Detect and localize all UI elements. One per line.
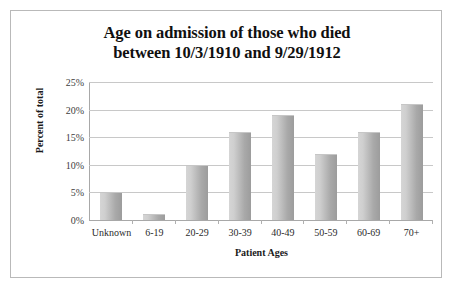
bar-60-69[interactable] (358, 132, 380, 220)
category-label-60-69: 60-69 (347, 227, 390, 238)
chart-title-line-1: Age on admission of those who died (31, 23, 423, 43)
bar-50-59[interactable] (315, 154, 337, 220)
y-axis-tick-labels: 25% 20% 15% 10% 5% 0% (51, 82, 84, 220)
category-label-unknown: Unknown (90, 227, 133, 238)
bar-slot-unknown (90, 82, 133, 220)
bar-slot-30-39 (219, 82, 262, 220)
category-tick (133, 220, 176, 224)
category-tick (262, 220, 305, 224)
y-tick-label-0: 0% (71, 215, 84, 226)
y-axis-title: Percent of total (34, 66, 45, 176)
category-label-30-39: 30-39 (219, 227, 262, 238)
bar-70plus[interactable] (401, 104, 423, 220)
category-axis-ticks (90, 220, 433, 224)
bar-series (90, 82, 433, 220)
category-tick (176, 220, 219, 224)
category-axis-labels: Unknown 6-19 20-29 30-39 40-49 50-59 60-… (90, 227, 433, 238)
chart-title-line-2: between 10/3/1910 and 9/29/1912 (31, 43, 423, 63)
category-tick (390, 220, 433, 224)
category-tick (304, 220, 347, 224)
category-tick (90, 220, 133, 224)
category-label-70plus: 70+ (390, 227, 433, 238)
category-tick (347, 220, 390, 224)
y-tick-label-10: 10% (66, 159, 84, 170)
category-label-20-29: 20-29 (176, 227, 219, 238)
category-tick (219, 220, 262, 224)
bar-30-39[interactable] (229, 132, 251, 220)
category-label-50-59: 50-59 (304, 227, 347, 238)
y-tick-label-15: 15% (66, 132, 84, 143)
bar-unknown[interactable] (100, 192, 122, 220)
bar-20-29[interactable] (186, 165, 208, 220)
chart-frame: Age on admission of those who died betwe… (10, 10, 442, 278)
bar-slot-40-49 (262, 82, 305, 220)
x-axis-title: Patient Ages (90, 247, 433, 258)
chart-title: Age on admission of those who died betwe… (31, 23, 423, 63)
bar-slot-70plus (390, 82, 433, 220)
bar-40-49[interactable] (272, 115, 294, 220)
category-label-6-19: 6-19 (133, 227, 176, 238)
y-tick-label-25: 25% (66, 77, 84, 88)
category-label-40-49: 40-49 (262, 227, 305, 238)
y-tick-label-20: 20% (66, 104, 84, 115)
y-tick-label-5: 5% (71, 187, 84, 198)
bar-slot-60-69 (347, 82, 390, 220)
bar-slot-50-59 (304, 82, 347, 220)
bar-slot-6-19 (133, 82, 176, 220)
bar-slot-20-29 (176, 82, 219, 220)
